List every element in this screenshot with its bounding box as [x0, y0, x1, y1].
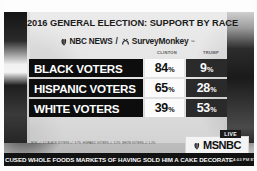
value-clinton-black-voters: 84	[155, 59, 168, 77]
cell-trump-black-voters: 9 %	[186, 59, 227, 77]
row-label-black-voters: BLACK VOTERS	[29, 59, 143, 77]
chyron-headline: CUSED WHOLE FOODS MARKETS OF HAVING SOLD…	[4, 156, 233, 163]
source-attribution: NBC NEWS / SurveyMonkey ™	[27, 32, 227, 50]
chyron-timestamp: 4:03 PM ET	[233, 157, 254, 162]
percent-sign: %	[210, 101, 216, 119]
nbc-peacock-icon	[60, 32, 68, 50]
nbc-peacock-icon	[193, 136, 201, 154]
column-header-clinton: CLINTON	[145, 50, 189, 55]
nbc-news-label: NBC NEWS	[70, 37, 113, 46]
margin-of-error-footnote: MOE +/- 5.1 BLACK VOTERS +/- 3.7%, HISPA…	[31, 142, 181, 145]
row-label-white-voters: WHITE VOTERS	[29, 99, 143, 117]
msnbc-wordmark: MSNBC	[203, 139, 241, 151]
table-row: BLACK VOTERS 84 % 9 %	[29, 59, 227, 77]
cell-trump-white-voters: 53 %	[186, 99, 227, 117]
broadcast-screenshot: 2016 GENERAL ELECTION: SUPPORT BY RACE N…	[0, 0, 257, 171]
row-label-hispanic-voters: HISPANIC VOTERS	[29, 79, 143, 97]
surveymonkey-label: SurveyMonkey	[132, 36, 189, 46]
chyron-bar: CUSED WHOLE FOODS MARKETS OF HAVING SOLD…	[4, 153, 254, 166]
percent-sign: %	[210, 81, 216, 99]
cell-clinton-white-voters: 39 %	[145, 99, 185, 117]
value-clinton-white-voters: 39	[155, 99, 168, 117]
status-badge: LIVE	[220, 130, 241, 138]
value-trump-black-voters: 9	[200, 59, 207, 77]
percent-sign: %	[168, 61, 174, 79]
value-trump-hispanic-voters: 28	[197, 79, 210, 97]
percent-sign: %	[168, 81, 174, 99]
page-margin-right	[254, 0, 257, 171]
page-margin-bottom	[0, 166, 257, 171]
value-clinton-hispanic-voters: 65	[155, 79, 168, 97]
percent-sign: %	[168, 101, 174, 119]
surveymonkey-logo-icon	[121, 32, 130, 50]
value-trump-white-voters: 53	[197, 99, 210, 117]
cell-trump-hispanic-voters: 28 %	[186, 79, 227, 97]
table-row: WHITE VOTERS 39 % 53 %	[29, 99, 227, 117]
page-margin-left	[0, 0, 4, 171]
page-title: 2016 GENERAL ELECTION: SUPPORT BY RACE	[27, 18, 227, 29]
video-background-right	[224, 12, 254, 143]
percent-sign: %	[207, 61, 213, 79]
page-margin-top	[0, 0, 257, 12]
cell-clinton-hispanic-voters: 65 %	[145, 79, 185, 97]
graphic-title-block: 2016 GENERAL ELECTION: SUPPORT BY RACE	[27, 18, 227, 29]
msnbc-network-bug: MSNBC	[185, 136, 249, 154]
cell-clinton-black-voters: 84 %	[145, 59, 185, 77]
poll-results-table: BLACK VOTERS 84 % 9 % HISPANIC VOTERS 65…	[29, 59, 227, 119]
trademark-mark: ™	[190, 39, 194, 44]
column-header-trump: TRUMP	[191, 50, 231, 55]
source-separator: /	[115, 37, 117, 46]
table-row: HISPANIC VOTERS 65 % 28 %	[29, 79, 227, 97]
